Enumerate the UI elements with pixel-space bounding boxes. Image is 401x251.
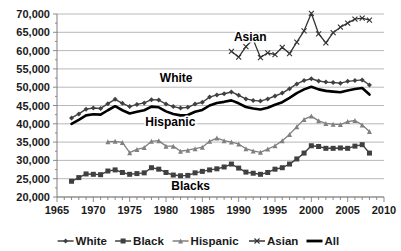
data-point-marker [345,21,350,26]
data-point-marker [156,167,161,172]
data-point-marker [258,55,263,60]
legend-label-white[interactable]: White [76,235,107,247]
data-point-marker [243,96,248,101]
data-point-marker [265,96,270,101]
ytick-label: 20,000 [16,191,50,203]
data-point-marker [91,106,96,111]
xtick-label: 1990 [226,204,250,216]
chart-canvas: 70,00065,00060,00055,00050,00045,00040,0… [0,0,401,251]
ytick-label: 40,000 [16,118,50,130]
data-point-marker [222,91,227,96]
xtick-label: 1975 [117,204,141,216]
data-point-marker [251,171,256,176]
data-point-marker [207,139,212,144]
data-point-marker [69,179,74,184]
data-point-marker [193,170,198,175]
xtick-label: 2010 [372,204,396,216]
data-point-marker [316,78,321,83]
data-point-marker [273,93,278,98]
data-point-marker [127,104,132,109]
xtick-label: 2005 [335,204,359,216]
data-point-marker [91,172,96,177]
data-point-marker [251,98,256,103]
data-point-marker [178,173,183,178]
data-point-marker [113,167,118,172]
data-point-marker [120,170,125,175]
data-point-marker [149,97,154,102]
ytick-label: 50,000 [16,81,50,93]
xtick-label: 2000 [299,204,323,216]
series-white [69,76,372,120]
data-point-marker [185,173,190,178]
data-point-marker [287,162,292,167]
data-point-marker [323,40,328,45]
data-point-marker [316,144,321,149]
legend-label-asian[interactable]: Asian [267,235,298,247]
ytick-label: 65,000 [16,26,50,38]
data-point-marker [171,104,176,109]
data-point-marker [265,147,270,152]
ytick-label: 35,000 [16,136,50,148]
data-point-marker [287,51,292,56]
legend-label-black[interactable]: Black [133,235,164,247]
data-point-marker [280,45,285,50]
data-point-marker [127,172,132,177]
data-point-marker [142,170,147,175]
data-point-marker [302,78,307,83]
data-point-marker [265,170,270,175]
median-income-by-race-chart: 70,00065,00060,00055,00050,00045,00040,0… [0,0,401,251]
data-point-marker [323,146,328,151]
legend-marker-white [63,239,68,244]
data-point-marker [134,102,139,107]
xtick-label: 1995 [263,204,287,216]
data-point-marker [331,80,336,85]
data-point-marker [84,171,89,176]
data-point-marker [207,167,212,172]
data-point-marker [367,151,372,156]
data-point-marker [302,117,307,122]
data-point-marker [236,55,241,60]
data-point-marker [243,44,248,49]
data-series-group [69,11,372,184]
data-point-marker [243,170,248,175]
data-point-marker [331,146,336,151]
data-point-marker [323,80,328,85]
data-point-marker [352,144,357,149]
data-point-marker [214,92,219,97]
ytick-label: 55,000 [16,63,50,75]
series-annotations-group: AsianAsianWhiteWhiteHispanicHispanicBlac… [145,30,266,193]
data-point-marker [229,89,234,94]
ytick-label: 25,000 [16,173,50,185]
data-point-marker [76,175,81,180]
data-point-marker [273,167,278,172]
xtick-labels-group: 1965197019751980198519901995200020052010 [45,204,396,216]
ytick-label: 30,000 [16,154,50,166]
data-point-marker [222,164,227,169]
ytick-label: 60,000 [16,45,50,57]
data-point-marker [236,166,241,171]
xtick-label: 1965 [45,204,69,216]
white-series-label: White [160,71,193,85]
data-point-marker [134,171,139,176]
series-black [69,142,372,184]
ytick-labels-group: 70,00065,00060,00055,00050,00045,00040,0… [16,8,50,203]
data-point-marker [345,79,350,84]
data-point-marker [338,25,343,30]
data-point-marker [98,172,103,177]
data-point-marker [164,170,169,175]
data-point-marker [258,99,263,104]
legend-label-hispanic[interactable]: Hispanic [191,235,240,247]
data-point-marker [200,169,205,174]
asian-series-label: Asian [234,30,267,44]
data-point-marker [178,106,183,111]
data-point-marker [294,156,299,161]
data-point-marker [171,173,176,178]
legend-marker-black [121,239,126,244]
data-point-marker [105,169,110,174]
data-point-marker [229,162,234,167]
legend-label-all[interactable]: All [325,235,340,247]
data-point-marker [345,146,350,151]
data-point-marker [142,100,147,105]
data-point-marker [236,93,241,98]
data-point-marker [229,49,234,54]
